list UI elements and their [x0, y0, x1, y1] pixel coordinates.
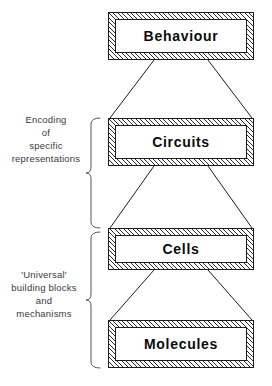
level-inner-molecules: Molecules	[115, 327, 247, 361]
diagram-canvas: Behaviour Circuits Cells Molecules Encod…	[0, 0, 272, 386]
connector-leg-circuits-cells-left	[110, 166, 154, 228]
level-inner-circuits: Circuits	[115, 125, 247, 159]
group-label-line: of	[6, 126, 86, 139]
level-label-circuits: Circuits	[152, 135, 210, 149]
group-label-line: 'Universal'	[2, 268, 86, 281]
group-label-line: and	[2, 294, 86, 307]
level-box-behaviour[interactable]: Behaviour	[108, 12, 254, 60]
group-label-line: Encoding	[6, 113, 86, 126]
level-inner-behaviour: Behaviour	[115, 19, 247, 53]
connector-leg-behaviour-circuits-left	[110, 60, 154, 118]
connector-leg-circuits-cells-right	[208, 166, 252, 228]
group-label-line: building blocks	[2, 281, 86, 294]
brace-universal	[86, 232, 100, 368]
level-label-molecules: Molecules	[144, 337, 218, 351]
brace-encoding	[86, 118, 100, 228]
group-label-universal: 'Universal'building blocksandmechanisms	[2, 268, 86, 320]
group-label-line: specific	[6, 139, 86, 152]
level-box-molecules[interactable]: Molecules	[108, 320, 254, 368]
connector-leg-cells-molecules-left	[110, 270, 154, 320]
group-label-encoding: Encodingofspecificrepresentations	[6, 113, 86, 165]
group-label-line: representations	[6, 152, 86, 165]
level-label-behaviour: Behaviour	[144, 29, 219, 43]
level-label-cells: Cells	[163, 242, 200, 256]
group-label-line: mechanisms	[2, 307, 86, 320]
connector-leg-cells-molecules-right	[208, 270, 252, 320]
level-inner-cells: Cells	[115, 235, 247, 263]
level-box-cells[interactable]: Cells	[108, 228, 254, 270]
connector-leg-behaviour-circuits-right	[208, 60, 252, 118]
level-box-circuits[interactable]: Circuits	[108, 118, 254, 166]
